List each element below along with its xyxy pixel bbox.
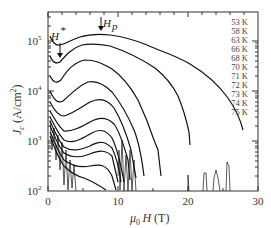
y-tick-1e5: 105 xyxy=(27,34,42,47)
curve-66K xyxy=(50,81,144,176)
noise-scribbles xyxy=(50,120,230,191)
legend-75K: 75 K xyxy=(231,107,249,117)
y-tick-1e2: 102 xyxy=(27,184,42,197)
x-tick-0: 0 xyxy=(45,195,51,207)
y-tick-1e4: 104 xyxy=(27,84,42,97)
y-axis-label: Jc (A/cm2) xyxy=(9,84,26,135)
y-tick-1e3: 103 xyxy=(27,134,42,147)
svg-text:p: p xyxy=(111,20,118,32)
svg-text:*: * xyxy=(60,24,66,36)
jc-vs-field-chart: 0 10 20 30 102 103 104 105 μ0 H (T) Jc (… xyxy=(0,0,271,228)
x-tick-labels: 0 10 20 30 xyxy=(45,195,264,207)
legend: 53 K 58 K 63 K 66 K 68 K 70 K 71 K 72 K … xyxy=(231,17,249,117)
y-tick-labels: 102 103 104 105 xyxy=(27,34,42,197)
data-curves xyxy=(50,34,243,190)
annotation-hp: H p xyxy=(98,17,118,32)
svg-text:H: H xyxy=(50,30,60,42)
x-tick-10: 10 xyxy=(113,195,125,207)
x-tick-20: 20 xyxy=(183,195,195,207)
x-axis-label: μ0 H (T) xyxy=(129,211,169,227)
svg-text:H: H xyxy=(102,17,112,29)
x-axis-ticks xyxy=(48,12,258,191)
plot-frame xyxy=(48,12,258,191)
x-tick-30: 30 xyxy=(253,195,265,207)
curve-53K xyxy=(50,34,243,130)
annotation-hstar: H * xyxy=(50,24,66,58)
